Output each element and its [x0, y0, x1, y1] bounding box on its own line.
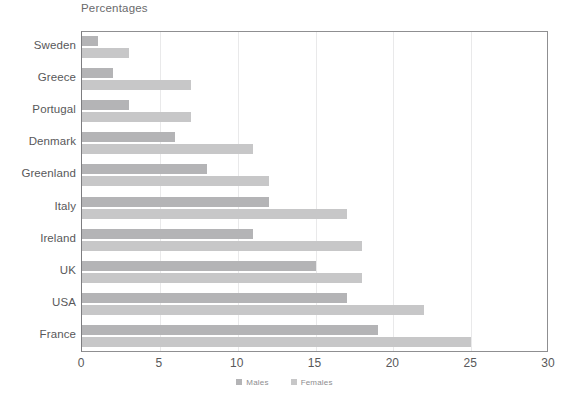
chart-legend: MalesFemales: [0, 378, 569, 387]
bar-females-france: [82, 337, 471, 347]
bar-females-uk: [82, 273, 362, 283]
bar-males-greenland: [82, 164, 207, 174]
legend-label-females: Females: [301, 378, 333, 387]
bar-females-ireland: [82, 241, 362, 251]
category-label-portugal: Portugal: [0, 103, 76, 115]
x-tick-15: 15: [308, 356, 321, 370]
category-label-sweden: Sweden: [0, 39, 76, 51]
legend-swatch-icon-females: [291, 379, 297, 385]
bar-females-greenland: [82, 176, 269, 186]
plot-area: [81, 31, 548, 352]
chart-title: Percentages: [81, 2, 148, 14]
x-tick-30: 30: [541, 356, 554, 370]
x-tick-20: 20: [386, 356, 399, 370]
bar-females-usa: [82, 305, 424, 315]
legend-item-males[interactable]: Males: [236, 378, 268, 387]
category-label-italy: Italy: [0, 200, 76, 212]
x-tick-25: 25: [463, 356, 476, 370]
bar-females-portugal: [82, 112, 191, 122]
category-label-france: France: [0, 328, 76, 340]
bars-layer: [82, 32, 547, 351]
bar-males-denmark: [82, 132, 175, 142]
category-axis-labels: SwedenGreecePortugalDenmarkGreenlandItal…: [0, 31, 76, 352]
bar-males-sweden: [82, 36, 98, 46]
x-axis-tick-labels: 051015202530: [0, 356, 569, 376]
bar-females-sweden: [82, 48, 129, 58]
category-label-denmark: Denmark: [0, 135, 76, 147]
bar-males-uk: [82, 261, 316, 271]
category-label-greece: Greece: [0, 71, 76, 83]
bar-females-italy: [82, 209, 347, 219]
category-label-uk: UK: [0, 264, 76, 276]
bar-chart: Percentages SwedenGreecePortugalDenmarkG…: [0, 0, 569, 398]
bar-males-ireland: [82, 229, 253, 239]
x-tick-5: 5: [155, 356, 162, 370]
bar-males-france: [82, 325, 378, 335]
legend-item-females[interactable]: Females: [291, 378, 333, 387]
category-label-ireland: Ireland: [0, 232, 76, 244]
bar-males-italy: [82, 197, 269, 207]
bar-males-portugal: [82, 100, 129, 110]
legend-swatch-icon-males: [236, 379, 242, 385]
category-label-greenland: Greenland: [0, 167, 76, 179]
x-tick-0: 0: [78, 356, 85, 370]
legend-label-males: Males: [246, 378, 268, 387]
bar-males-usa: [82, 293, 347, 303]
x-tick-10: 10: [230, 356, 243, 370]
bar-males-greece: [82, 68, 113, 78]
category-label-usa: USA: [0, 296, 76, 308]
bar-females-greece: [82, 80, 191, 90]
bar-females-denmark: [82, 144, 253, 154]
